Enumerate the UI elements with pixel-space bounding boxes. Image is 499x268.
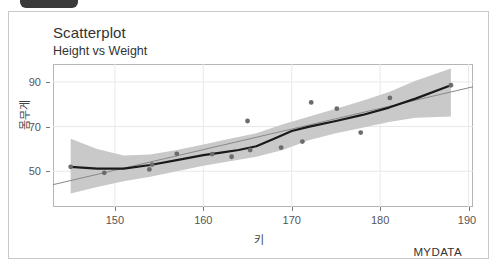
plot-area: [53, 64, 473, 207]
data-point[interactable]: [309, 100, 314, 105]
x-axis-tick-mark: [380, 207, 381, 211]
x-axis-tick-mark: [203, 207, 204, 211]
data-point[interactable]: [102, 170, 107, 175]
x-axis-tick-mark: [292, 207, 293, 211]
data-point[interactable]: [279, 145, 284, 150]
data-point[interactable]: [147, 167, 152, 172]
data-point[interactable]: [248, 148, 253, 153]
y-axis-tick-mark: [46, 127, 50, 128]
y-axis-tick-label: 90: [7, 76, 41, 88]
x-axis-label: 키: [9, 231, 499, 247]
y-axis-tick-mark: [46, 82, 50, 83]
data-point[interactable]: [334, 106, 339, 111]
page-title: Scatterplot: [53, 24, 126, 41]
data-point[interactable]: [300, 139, 305, 144]
y-axis-label: 몸무게: [16, 100, 32, 130]
chart-caption: MYDATA: [413, 246, 462, 258]
scatterplot-svg: [53, 64, 473, 207]
data-point[interactable]: [174, 151, 179, 156]
data-point[interactable]: [358, 130, 363, 135]
data-point[interactable]: [210, 152, 215, 157]
chart-subtitle: Height vs Weight: [53, 44, 147, 58]
data-point[interactable]: [448, 83, 453, 88]
window-badge[interactable]: [20, 0, 78, 8]
x-axis-tick-mark: [469, 207, 470, 211]
data-point[interactable]: [68, 164, 73, 169]
x-axis-tick-label: 190: [458, 214, 476, 226]
data-point[interactable]: [245, 119, 250, 124]
x-axis-tick-label: 170: [283, 214, 301, 226]
x-axis-tick-mark: [115, 207, 116, 211]
y-axis-tick-label: 50: [7, 165, 41, 177]
y-axis: 507090: [7, 64, 49, 207]
y-axis-tick-mark: [46, 171, 50, 172]
x-axis-tick-label: 160: [194, 214, 212, 226]
x-axis-tick-label: 180: [371, 214, 389, 226]
confidence-band: [71, 68, 451, 193]
x-axis-tick-label: 150: [106, 214, 124, 226]
data-point[interactable]: [387, 96, 392, 101]
data-point[interactable]: [150, 162, 155, 167]
chart-card: Scatterplot Height vs Weight 507090 1501…: [8, 11, 489, 259]
data-point[interactable]: [229, 154, 234, 159]
x-axis: 150160170180190: [53, 207, 473, 229]
